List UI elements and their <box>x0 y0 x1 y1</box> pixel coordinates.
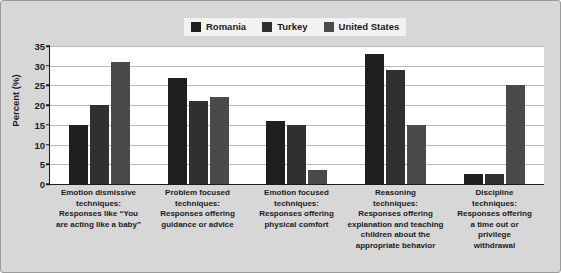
bar <box>464 174 483 184</box>
bar <box>69 125 88 184</box>
category-label-line: techniques: <box>248 199 345 210</box>
y-tick-label: 5 <box>40 159 45 170</box>
category-label-line: Problem focused <box>149 188 246 199</box>
category-label-line: Emotion focused <box>248 188 345 199</box>
category-label-line: appropriate behavior <box>347 241 444 252</box>
chart-figure: RomaniaTurkeyUnited States Percent (%) 0… <box>0 0 561 273</box>
legend-item: United States <box>324 22 400 32</box>
category-label-line: techniques: <box>50 199 147 210</box>
bar <box>308 170 327 184</box>
category-label-line: Responses offering <box>149 209 246 220</box>
x-axis-category-label: Problem focusedtechniques:Responses offe… <box>148 188 247 251</box>
chart-legend: RomaniaTurkeyUnited States <box>184 18 406 36</box>
legend-swatch-icon <box>262 22 272 32</box>
y-tick-label: 10 <box>34 139 45 150</box>
category-label-line: physical comfort <box>248 220 345 231</box>
bar-group <box>248 46 347 184</box>
bar <box>386 70 405 184</box>
category-label-line: guidance or advice <box>149 220 246 231</box>
bar <box>111 62 130 184</box>
legend-item-label: Romania <box>206 22 246 32</box>
legend-item: Romania <box>191 22 246 32</box>
bar <box>266 121 285 184</box>
bar-groups <box>50 46 544 184</box>
category-label-line: Responses offering <box>248 209 345 220</box>
category-label-line: withdrawal <box>446 241 543 252</box>
bar <box>90 105 109 184</box>
y-tick-label: 35 <box>34 41 45 52</box>
category-label-line: techniques: <box>446 199 543 210</box>
y-tick-label: 25 <box>34 80 45 91</box>
x-axis-category-label: Disciplinetechniques:Responses offeringa… <box>445 188 544 251</box>
category-label-line: techniques: <box>149 199 246 210</box>
y-tick-label: 0 <box>40 179 45 190</box>
x-axis-category-label: Emotion focusedtechniques:Responses offe… <box>247 188 346 251</box>
bar <box>365 54 384 184</box>
x-axis-category-labels: Emotion dismissivetechniques:Responses l… <box>49 188 544 251</box>
legend-swatch-icon <box>324 22 334 32</box>
y-tick-label: 20 <box>34 100 45 111</box>
y-tick-label: 15 <box>34 119 45 130</box>
category-label-line: Reasoning <box>347 188 444 199</box>
bar <box>506 85 525 184</box>
x-axis-category-label: Reasoningtechniques:Responses offeringex… <box>346 188 445 251</box>
legend-swatch-icon <box>191 22 201 32</box>
legend-item-label: Turkey <box>277 22 307 32</box>
plot-area: 05101520253035 <box>49 46 544 185</box>
category-label-line: Responses offering <box>347 209 444 220</box>
bar <box>210 97 229 184</box>
category-label-line: are acting like a baby” <box>50 220 147 231</box>
legend-item-label: United States <box>339 22 400 32</box>
bar <box>485 174 504 184</box>
bar-group <box>346 46 445 184</box>
category-label-line: techniques: <box>347 199 444 210</box>
category-label-line: Responses like “You <box>50 209 147 220</box>
x-axis-category-label: Emotion dismissivetechniques:Responses l… <box>49 188 148 251</box>
bar <box>168 78 187 184</box>
bar <box>407 125 426 184</box>
legend-item: Turkey <box>262 22 307 32</box>
bar-group <box>445 46 544 184</box>
category-label-line: privilege <box>446 230 543 241</box>
category-label-line: Emotion dismissive <box>50 188 147 199</box>
bar-group <box>50 46 149 184</box>
category-label-line: children about the <box>347 230 444 241</box>
y-tick-label: 30 <box>34 60 45 71</box>
category-label-line: Responses offering <box>446 209 543 220</box>
bar <box>189 101 208 184</box>
category-label-line: Discipline <box>446 188 543 199</box>
bar <box>287 125 306 184</box>
category-label-line: explanation and teaching <box>347 220 444 231</box>
y-axis-title: Percent (%) <box>10 66 21 136</box>
category-label-line: a time out or <box>446 220 543 231</box>
bar-group <box>149 46 248 184</box>
